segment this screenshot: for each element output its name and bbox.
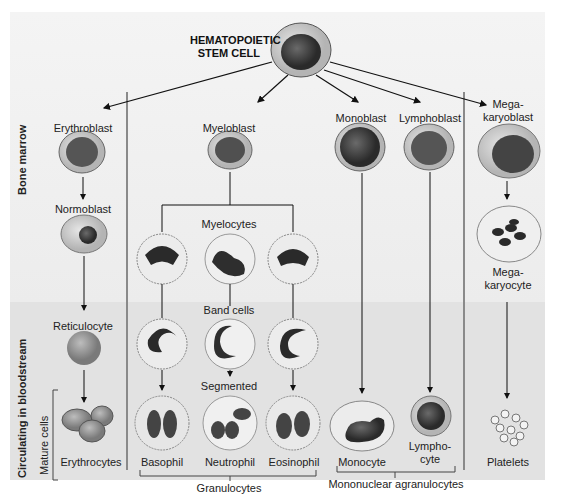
lymphocyte-icon <box>411 396 451 436</box>
label-lymphocyte-line-1: Lympho- <box>404 440 456 453</box>
label-megakaryocyte-line-2: karyocyte <box>478 279 538 292</box>
monocyte-icon <box>330 401 394 451</box>
stem-cell-icon <box>271 23 331 77</box>
title-line-2: STEM CELL <box>190 47 260 60</box>
basophil-icon <box>135 396 189 450</box>
erythrocytes-icon <box>62 406 113 442</box>
basophil-myelocyte-icon <box>137 234 187 284</box>
label-megakaryocyte: Mega- karyocyte <box>478 266 538 292</box>
zone-label-bone-marrow: Bone marrow <box>16 125 28 195</box>
zone-label-bloodstream: Circulating in bloodstream <box>16 339 28 478</box>
label-neutrophil: Neutrophil <box>200 456 260 469</box>
label-eosinophil: Eosinophil <box>264 456 324 469</box>
lymphoblast-icon <box>404 124 454 170</box>
label-band-cells: Band cells <box>196 304 262 317</box>
myeloblast-icon <box>208 131 252 169</box>
label-mononuclear-agranulocytes: Mononuclear agranulocytes <box>328 478 464 491</box>
label-monocyte: Monocyte <box>332 456 392 469</box>
label-monoblast: Monoblast <box>328 112 394 125</box>
label-myeloblast: Myeloblast <box>196 122 262 135</box>
title-line-1: HEMATOPOIETIC <box>190 34 260 47</box>
platelets-icon <box>491 410 528 446</box>
label-erythrocytes: Erythrocytes <box>58 456 124 469</box>
normoblast-icon <box>61 215 107 253</box>
label-megakaryocyte-line-1: Mega- <box>478 266 538 279</box>
zone-label-mature-cells: Mature cells <box>38 416 50 475</box>
label-reticulocyte: Reticulocyte <box>50 320 116 333</box>
neutrophil-band-icon <box>205 319 255 369</box>
label-segmented: Segmented <box>196 380 262 393</box>
neutrophil-icon <box>203 396 257 450</box>
monoblast-icon <box>335 123 385 171</box>
eosinophil-band-icon <box>268 319 318 369</box>
label-megakaryoblast-line-2: karyoblast <box>478 111 538 124</box>
label-normoblast: Normoblast <box>50 203 116 216</box>
label-megakaryoblast-line-1: Mega- <box>478 98 538 111</box>
megakaryocyte-icon <box>477 206 541 262</box>
label-lymphocyte-line-2: cyte <box>404 453 456 466</box>
reticulocyte-icon <box>67 331 101 365</box>
neutrophil-myelocyte-icon <box>205 234 255 284</box>
label-granulocytes: Granulocytes <box>196 482 262 495</box>
eosinophil-myelocyte-icon <box>268 234 318 284</box>
label-platelets: Platelets <box>478 456 538 469</box>
label-lymphoblast: Lymphoblast <box>396 112 464 125</box>
label-erythroblast: Erythroblast <box>50 122 116 135</box>
label-lymphocyte: Lympho- cyte <box>404 440 456 466</box>
page-title: HEMATOPOIETIC STEM CELL <box>190 34 260 60</box>
label-myelocytes: Myelocytes <box>196 218 262 231</box>
megakaryoblast-icon <box>478 124 540 178</box>
label-basophil: Basophil <box>134 456 190 469</box>
label-megakaryoblast: Mega- karyoblast <box>478 98 538 124</box>
erythroblast-icon <box>59 131 105 173</box>
eosinophil-icon <box>266 396 320 450</box>
diagram-graphics <box>0 0 561 502</box>
basophil-band-icon <box>137 319 187 369</box>
